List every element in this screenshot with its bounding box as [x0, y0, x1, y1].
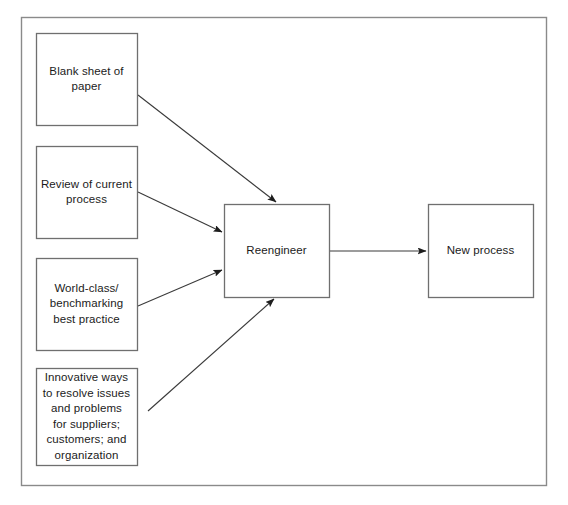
- diagram-svg: [0, 0, 568, 505]
- node-world-class-benchmarking: [37, 259, 138, 351]
- node-new-process: [429, 205, 534, 298]
- node-reengineer: [225, 205, 330, 298]
- diagram-canvas: Blank sheet of paperReview of current pr…: [0, 0, 568, 505]
- node-review-of-current-process: [37, 147, 138, 239]
- node-blank-sheet-of-paper: [37, 34, 138, 126]
- node-innovative-ways: [37, 369, 138, 466]
